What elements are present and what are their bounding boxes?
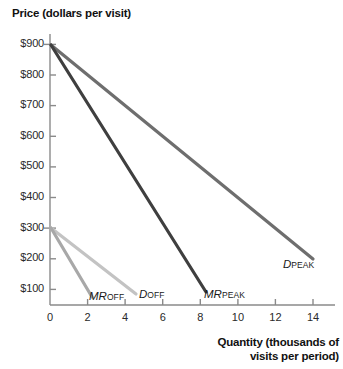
x-tick-label-0: 0 [38, 311, 62, 323]
y-tick-label-100: $100 [2, 282, 44, 294]
x-tick-label-8: 8 [188, 311, 212, 323]
curve-mr-off [51, 228, 92, 297]
y-tick-label-700: $700 [2, 98, 44, 110]
curve-label-mr-peak-sub: PEAK [222, 290, 245, 300]
y-tick-label-400: $400 [2, 190, 44, 202]
x-axis-title: Quantity (thousands of visits per period… [169, 336, 339, 363]
y-tick-label-200: $200 [2, 251, 44, 263]
x-tick-label-10: 10 [226, 311, 250, 323]
curve-label-d-peak: DPEAK [283, 258, 314, 270]
x-tick-label-6: 6 [151, 311, 175, 323]
curve-label-mr-off: MROFF [89, 290, 124, 302]
y-tick-label-900: $900 [2, 37, 44, 49]
x-tick-label-4: 4 [113, 311, 137, 323]
curve-label-mr-peak-main: MR [204, 288, 222, 300]
x-tick-label-12: 12 [263, 311, 287, 323]
x-tick-label-2: 2 [76, 311, 100, 323]
curve-mr-peak [51, 45, 206, 292]
y-tick-label-800: $800 [2, 68, 44, 80]
curve-label-d-peak-sub: PEAK [291, 260, 314, 270]
curve-label-d-off-sub: OFF [147, 290, 164, 300]
x-tick-label-14: 14 [301, 311, 325, 323]
curve-label-mr-off-main: MR [89, 290, 107, 302]
x-axis-title-line1: Quantity (thousands of [169, 336, 339, 350]
curve-label-d-off: DOFF [139, 288, 165, 300]
y-tick-label-500: $500 [2, 159, 44, 171]
curve-label-mr-off-sub: OFF [107, 292, 124, 302]
curve-d-peak [51, 45, 313, 259]
curve-label-mr-peak: MRPEAK [204, 288, 245, 300]
y-tick-label-600: $600 [2, 129, 44, 141]
x-axis-title-line2: visits per period) [169, 350, 339, 364]
y-tick-label-300: $300 [2, 221, 44, 233]
curve-d-off [51, 228, 136, 294]
price-quantity-chart: Price (dollars per visit) [0, 0, 343, 369]
